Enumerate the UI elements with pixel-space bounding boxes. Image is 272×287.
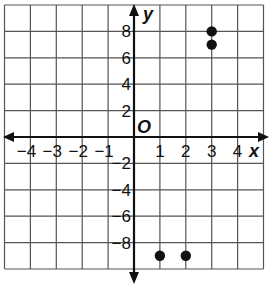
x-axis-label: x — [248, 141, 260, 161]
data-point — [155, 251, 165, 261]
tick-label: −4 — [112, 181, 131, 200]
origin-label: O — [137, 117, 151, 137]
y-axis-up-arrow-icon — [129, 4, 139, 16]
tick-label: 4 — [233, 142, 242, 161]
tick-label: 3 — [207, 142, 216, 161]
tick-label: −3 — [43, 142, 62, 161]
tick-label: −4 — [17, 142, 36, 161]
y-axis-label: y — [142, 4, 154, 24]
tick-label: 4 — [122, 75, 131, 94]
coordinate-plane: −4−3−2−112348642−2−4−6−8 y x O — [0, 0, 272, 287]
tick-label: 8 — [122, 22, 131, 41]
tick-label: 1 — [155, 142, 164, 161]
tick-label: −6 — [112, 207, 131, 226]
tick-label: 2 — [181, 142, 190, 161]
data-point — [181, 251, 191, 261]
tick-label: 2 — [122, 102, 131, 121]
data-point — [207, 39, 217, 49]
tick-label: −2 — [112, 154, 131, 173]
data-point — [207, 26, 217, 36]
tick-label: 6 — [122, 49, 131, 68]
tick-label: −8 — [112, 234, 131, 253]
tick-label: −2 — [69, 142, 88, 161]
y-axis-down-arrow-icon — [129, 272, 139, 284]
